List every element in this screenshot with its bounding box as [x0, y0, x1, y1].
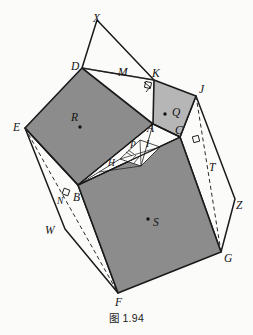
dot-S [146, 217, 149, 220]
label-P: P [129, 140, 136, 150]
label-W: W [45, 224, 56, 236]
figure-caption: 图 1.94 [0, 310, 253, 325]
label-R: R [70, 111, 78, 123]
label-F: F [114, 296, 123, 308]
figure-container: X D M K J E R Q A C P I H T N B Z W S G … [0, 0, 253, 335]
label-Z: Z [236, 199, 243, 211]
label-H: H [107, 158, 116, 168]
label-N: N [56, 196, 64, 206]
label-A: A [146, 122, 155, 134]
label-B: B [73, 191, 80, 203]
label-G: G [224, 252, 233, 264]
label-Q: Q [172, 106, 181, 118]
dot-R [78, 125, 81, 128]
label-M: M [117, 66, 129, 78]
label-D: D [70, 60, 80, 72]
geometry-diagram: X D M K J E R Q A C P I H T N B Z W S G … [0, 0, 253, 335]
label-E: E [12, 121, 20, 133]
label-C: C [175, 124, 183, 136]
label-K: K [151, 67, 161, 79]
label-S: S [153, 216, 159, 228]
label-J: J [199, 83, 205, 95]
label-X: X [92, 12, 101, 24]
dot-Q [163, 112, 166, 115]
